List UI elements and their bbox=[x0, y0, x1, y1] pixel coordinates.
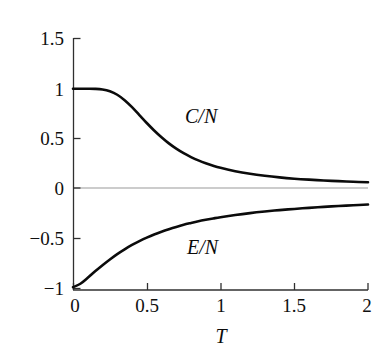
curve-energy bbox=[73, 205, 368, 288]
x-tick-label-1-5: 1.5 bbox=[282, 296, 306, 315]
y-tick-label-1: 1 bbox=[12, 80, 64, 99]
curve-heat-capacity bbox=[73, 89, 368, 182]
x-tick-label-2: 2 bbox=[362, 296, 372, 315]
y-tick-label-neg-1: −1 bbox=[6, 279, 64, 298]
curve-label-energy: E/N bbox=[187, 237, 218, 257]
y-tick-marks bbox=[74, 39, 81, 289]
x-tick-label-0-5: 0.5 bbox=[135, 296, 159, 315]
x-axis-title: T bbox=[215, 326, 226, 346]
y-tick-label-neg-0-5: −0.5 bbox=[6, 229, 64, 248]
x-tick-marks bbox=[74, 283, 369, 290]
curve-label-heat-capacity: C/N bbox=[185, 106, 217, 126]
chart-figure: 1.5 1 0.5 0 −0.5 −1 0 0.5 1 1.5 2 T C/N … bbox=[0, 0, 392, 360]
y-tick-label-1-5: 1.5 bbox=[12, 29, 64, 48]
y-tick-label-0: 0 bbox=[12, 179, 64, 198]
x-tick-label-1: 1 bbox=[216, 296, 226, 315]
y-tick-label-0-5: 0.5 bbox=[12, 129, 64, 148]
x-tick-label-0: 0 bbox=[70, 296, 80, 315]
